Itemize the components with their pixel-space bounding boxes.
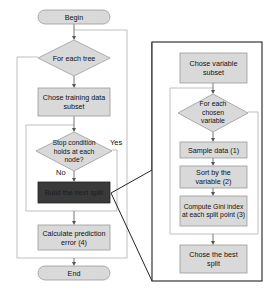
build-split-label: Build the next split xyxy=(38,182,110,203)
chose-best-label: Chose the best split xyxy=(184,245,243,273)
compute-gini-label: Compute Gini index at each split point (… xyxy=(181,196,246,226)
for-each-variable-label: For each chosen variable xyxy=(193,98,233,128)
for-each-tree-label: For each tree xyxy=(52,44,96,72)
end-label: End xyxy=(38,266,110,280)
stop-condition-label: Stop condition holds at each node? xyxy=(46,136,102,168)
chose-training-label: Chose training data subset xyxy=(40,88,108,116)
sample-data-label: Sample data (1) xyxy=(180,142,247,158)
chose-variable-label: Chose variable subset xyxy=(184,53,243,83)
sort-variable-label: Sort by the variable (2) xyxy=(186,166,241,188)
calculate-error-label: Calculate prediction error (4) xyxy=(38,225,110,250)
begin-label: Begin xyxy=(38,10,110,24)
yes-label: Yes xyxy=(110,138,122,147)
no-label: No xyxy=(56,168,66,177)
